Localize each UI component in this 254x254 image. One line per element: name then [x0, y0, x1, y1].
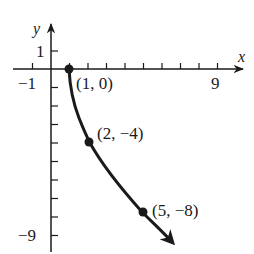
tick-label-y-neg9: −9	[18, 226, 36, 245]
x-axis-label: x	[237, 48, 245, 65]
tick-label-x-neg1: −1	[18, 74, 36, 93]
point-5-neg8	[139, 208, 148, 217]
point-label-1-0: (1, 0)	[76, 74, 113, 93]
tick-label-x-9: 9	[211, 74, 220, 93]
point-1-0	[65, 65, 74, 74]
y-axis-label: y	[31, 20, 41, 38]
point-label-2-neg4: (2, −4)	[97, 124, 143, 143]
function-graph: x y −1 9 1 −9 (1, 0) (2, −4) (5, −8)	[0, 0, 254, 254]
x-ticks	[33, 63, 218, 69]
point-2-neg4	[85, 138, 94, 147]
y-ticks	[51, 51, 58, 236]
tick-label-y-1: 1	[36, 42, 45, 61]
point-label-5-neg8: (5, −8)	[152, 201, 198, 220]
